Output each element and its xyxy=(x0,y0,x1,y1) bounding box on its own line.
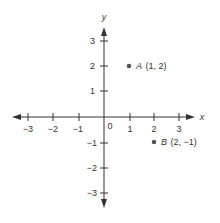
x-tick-label: 1 xyxy=(127,124,132,134)
y-tick-label: 2 xyxy=(90,61,95,71)
x-tick-label: 3 xyxy=(176,124,181,134)
point-b-name: B xyxy=(161,137,167,147)
x-tick-label: 2 xyxy=(151,124,156,134)
y-tick-label: −1 xyxy=(87,138,97,148)
x-axis-label: x xyxy=(199,112,205,122)
point-a-marker-icon xyxy=(127,64,132,69)
x-tick-label: −2 xyxy=(48,124,58,134)
x-tick-label: −3 xyxy=(23,124,33,134)
y-tick-label: −2 xyxy=(87,163,97,173)
point-b-marker-icon xyxy=(152,140,157,145)
point-a-coords: (1, 2) xyxy=(146,61,167,71)
point-a: A (1, 2) xyxy=(127,61,167,71)
point-b-coords: (2, −1) xyxy=(171,137,197,147)
point-a-name: A xyxy=(135,61,142,71)
y-tick-label: −3 xyxy=(87,188,97,198)
coordinate-plane: −3 −2 −1 0 1 2 3 x 3 2 1 −1 −2 −3 y A (1… xyxy=(0,0,220,223)
y-axis-up-arrow-icon xyxy=(101,27,107,36)
svg-text:B (2, −1): B (2, −1) xyxy=(161,137,197,147)
origin-label: 0 xyxy=(107,121,112,131)
y-axis: 3 2 1 −1 −2 −3 y xyxy=(87,12,108,208)
x-tick-label: −1 xyxy=(73,124,83,134)
y-axis-label: y xyxy=(101,12,107,22)
point-b: B (2, −1) xyxy=(152,137,197,147)
y-tick-label: 1 xyxy=(90,86,95,96)
y-tick-label: 3 xyxy=(90,36,95,46)
svg-text:A (1, 2): A (1, 2) xyxy=(135,61,167,71)
x-axis: −3 −2 −1 0 1 2 3 x xyxy=(12,112,205,134)
x-axis-right-arrow-icon xyxy=(186,114,195,120)
y-axis-down-arrow-icon xyxy=(101,199,107,208)
x-axis-left-arrow-icon xyxy=(12,114,21,120)
